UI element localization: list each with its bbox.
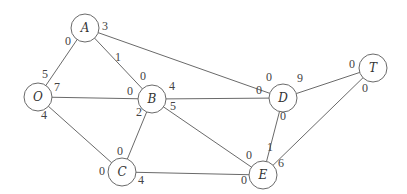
capacity-label: 0 (241, 173, 247, 187)
capacity-label: 5 (170, 99, 176, 113)
capacity-label: 3 (102, 19, 108, 33)
capacity-label: 0 (127, 84, 133, 98)
edge-o-c (38, 97, 122, 172)
node-label: A (80, 21, 90, 35)
node-d: D (269, 84, 297, 112)
capacity-label: 0 (140, 69, 146, 83)
capacity-label: 0 (256, 83, 262, 97)
edge-o-b (38, 97, 152, 99)
node-label: C (117, 165, 126, 179)
node-label: E (258, 168, 268, 182)
capacity-label: 4 (169, 79, 175, 93)
capacity-label: 0 (99, 164, 105, 178)
capacity-label: 0 (65, 34, 71, 48)
edges-layer (38, 28, 373, 175)
node-b: B (138, 85, 166, 113)
node-t: T (359, 54, 387, 82)
capacity-label: 0 (117, 144, 123, 158)
flow-network-diagram: AOBDTCE 053107044520090000040160 (0, 0, 407, 194)
capacity-label: 0 (280, 109, 286, 123)
node-label: T (369, 61, 378, 75)
node-o: O (24, 83, 52, 111)
capacity-label: 1 (267, 140, 273, 154)
capacity-label: 2 (136, 105, 142, 119)
nodes-layer: AOBDTCE (24, 14, 387, 189)
capacity-label: 0 (246, 148, 252, 162)
node-a: A (71, 14, 99, 42)
capacity-label: 4 (41, 108, 47, 122)
capacity-label: 0 (349, 57, 355, 71)
capacity-label: 0 (266, 70, 272, 84)
capacity-label: 6 (278, 156, 284, 170)
capacity-label: 7 (54, 80, 60, 94)
capacity-label: 5 (42, 67, 48, 81)
edge-b-e (152, 99, 263, 175)
capacity-label: 1 (115, 50, 121, 64)
node-label: D (277, 91, 288, 105)
capacity-label: 4 (138, 173, 144, 187)
node-c: C (108, 158, 136, 186)
node-e: E (249, 161, 277, 189)
edge-capacity-labels: 053107044520090000040160 (41, 19, 368, 187)
node-label: B (147, 92, 157, 106)
node-label: O (33, 90, 43, 104)
capacity-label: 0 (362, 81, 368, 95)
capacity-label: 9 (297, 71, 303, 85)
